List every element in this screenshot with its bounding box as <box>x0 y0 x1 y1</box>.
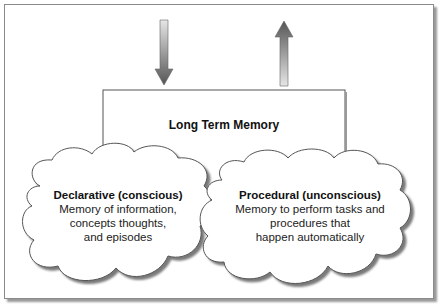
declarative-line-2: concepts thoughts, <box>28 216 208 230</box>
down-arrow-icon <box>155 20 173 85</box>
procedural-heading: Procedural (unconscious) <box>210 188 410 202</box>
declarative-heading: Declarative (conscious) <box>28 188 208 202</box>
procedural-memory-text: Procedural (unconscious) Memory to perfo… <box>210 188 410 244</box>
declarative-memory-text: Declarative (conscious) Memory of inform… <box>28 188 208 244</box>
up-arrow-icon <box>275 21 293 86</box>
procedural-line-1: Memory to perform tasks and <box>210 202 410 216</box>
procedural-line-2: procedures that <box>210 216 410 230</box>
declarative-line-1: Memory of information, <box>28 202 208 216</box>
diagram-canvas <box>0 0 440 307</box>
long-term-memory-title: Long Term Memory <box>103 118 345 132</box>
procedural-line-3: happen automatically <box>210 230 410 244</box>
declarative-line-3: and episodes <box>28 230 208 244</box>
